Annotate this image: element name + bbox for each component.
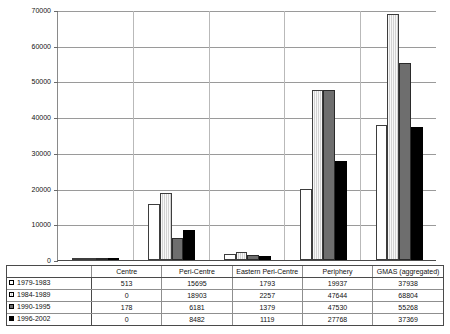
table-cell: 2257 bbox=[232, 290, 302, 302]
y-tick-label: 20000 bbox=[0, 186, 51, 193]
bar bbox=[148, 204, 160, 260]
y-tick-mark bbox=[54, 261, 58, 262]
table-header-row: CentrePeri-CentreEastern Peri-CentrePeri… bbox=[7, 266, 443, 278]
table-corner-cell bbox=[7, 266, 92, 278]
table-row: 1979-19835131569517931993737938 bbox=[7, 278, 443, 290]
table-cell: 55268 bbox=[373, 302, 443, 314]
table-cell: 1793 bbox=[232, 278, 302, 290]
y-tick-label: 60000 bbox=[0, 43, 51, 50]
y-tick-label: 30000 bbox=[0, 150, 51, 157]
legend-entry: 1990-1995 bbox=[7, 302, 92, 314]
table-cell: 15695 bbox=[162, 278, 232, 290]
table-cell: 37938 bbox=[373, 278, 443, 290]
legend-swatch-icon bbox=[9, 292, 14, 297]
table-row: 1984-198901890322574764468804 bbox=[7, 290, 443, 302]
bar bbox=[84, 258, 96, 260]
bar-cluster bbox=[58, 11, 134, 260]
table-row: 1990-1995178618113794753055268 bbox=[7, 302, 443, 314]
table-cell: 47644 bbox=[302, 290, 372, 302]
bar-cluster bbox=[134, 11, 210, 260]
bar bbox=[172, 238, 184, 260]
table-column-header: Periphery bbox=[302, 266, 372, 278]
table-cell: 8482 bbox=[162, 314, 232, 326]
legend-label: 1984-1989 bbox=[17, 292, 50, 299]
legend-entry: 1984-1989 bbox=[7, 290, 92, 302]
table-cell: 6181 bbox=[162, 302, 232, 314]
bar-cluster bbox=[285, 11, 361, 260]
bar bbox=[247, 255, 259, 260]
legend-entry: 1996-2002 bbox=[7, 314, 92, 326]
legend-entry: 1979-1983 bbox=[7, 278, 92, 290]
bar bbox=[399, 63, 411, 260]
table-cell: 1379 bbox=[232, 302, 302, 314]
table-cell: 47530 bbox=[302, 302, 372, 314]
y-tick-label: 70000 bbox=[0, 7, 51, 14]
bar bbox=[259, 256, 271, 260]
bar bbox=[411, 127, 423, 260]
bar bbox=[387, 14, 399, 260]
bar bbox=[300, 189, 312, 260]
bar bbox=[376, 125, 388, 260]
table-cell: 68804 bbox=[373, 290, 443, 302]
bar bbox=[323, 90, 335, 260]
legend-swatch-icon bbox=[9, 316, 14, 321]
y-tick-label: 10000 bbox=[0, 221, 51, 228]
table-cell: 0 bbox=[92, 314, 162, 326]
table-cell: 0 bbox=[92, 290, 162, 302]
bar-cluster bbox=[361, 11, 437, 260]
table-cell: 513 bbox=[92, 278, 162, 290]
legend-swatch-icon bbox=[9, 304, 14, 309]
bar bbox=[183, 230, 195, 260]
bar bbox=[108, 258, 120, 260]
table-column-header: Centre bbox=[92, 266, 162, 278]
bar-cluster bbox=[210, 11, 286, 260]
bar bbox=[96, 258, 108, 260]
chart-figure: 700006000050000400003000020000100000 Cen… bbox=[0, 0, 450, 334]
table-column-header: GMAS (aggregated) bbox=[373, 266, 443, 278]
legend-swatch-icon bbox=[9, 280, 14, 285]
table-cell: 178 bbox=[92, 302, 162, 314]
bar bbox=[335, 161, 347, 260]
y-tick-label: 50000 bbox=[0, 78, 51, 85]
bar bbox=[72, 258, 84, 260]
data-table-wrapper: CentrePeri-CentreEastern Peri-CentrePeri… bbox=[6, 265, 444, 326]
y-tick-label: 0 bbox=[0, 257, 51, 264]
legend-label: 1990-1995 bbox=[17, 304, 50, 311]
table-cell: 1119 bbox=[232, 314, 302, 326]
legend-label: 1996-2002 bbox=[17, 316, 50, 323]
table-row: 1996-20020848211192776837369 bbox=[7, 314, 443, 326]
table-cell: 18903 bbox=[162, 290, 232, 302]
bar bbox=[236, 252, 248, 260]
bar bbox=[160, 193, 172, 261]
plot-wrapper: 700006000050000400003000020000100000 bbox=[0, 0, 450, 266]
table-column-header: Peri-Centre bbox=[162, 266, 232, 278]
data-table: CentrePeri-CentreEastern Peri-CentrePeri… bbox=[7, 266, 443, 325]
table-body: 1979-198351315695179319937379381984-1989… bbox=[7, 278, 443, 326]
table-cell: 19937 bbox=[302, 278, 372, 290]
table-column-header: Eastern Peri-Centre bbox=[232, 266, 302, 278]
bar bbox=[224, 254, 236, 260]
plot-area bbox=[57, 11, 436, 261]
y-tick-label: 40000 bbox=[0, 114, 51, 121]
table-cell: 27768 bbox=[302, 314, 372, 326]
bar bbox=[312, 90, 324, 260]
legend-label: 1979-1983 bbox=[17, 280, 50, 287]
table-cell: 37369 bbox=[373, 314, 443, 326]
